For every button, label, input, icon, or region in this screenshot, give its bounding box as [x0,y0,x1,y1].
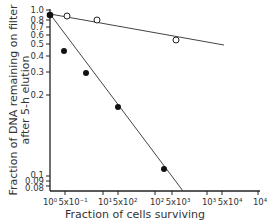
svg-text:5x10⁴: 5x10⁴ [218,197,243,207]
x-axis-title: Fraction of cells surviving [65,208,205,221]
data-point [47,12,54,19]
svg-text:10⁴: 10⁴ [253,197,268,207]
data-point [115,104,121,110]
svg-text:10²: 10² [150,197,164,207]
data-point [173,37,179,43]
svg-text:0.08: 0.08 [25,183,44,193]
svg-text:0.3: 0.3 [30,67,44,77]
svg-text:0.5: 0.5 [30,39,44,49]
open-series-fit-line [50,14,224,45]
chart: 1.0 0.8 0.7 0.6 0.5 0.4 0.3 0.2 0.1 0.09… [0,0,274,221]
filled-circle-series [47,12,167,172]
svg-text:10⁰: 10⁰ [43,197,58,207]
svg-text:5x10²: 5x10² [113,197,138,207]
filled-series-fit-line [50,14,183,191]
data-point [94,17,100,23]
data-point [83,70,89,76]
y-axis-title-line2: after 5-h elution [19,56,32,145]
svg-text:0.2: 0.2 [30,90,44,100]
svg-text:5x10³: 5x10³ [166,197,191,207]
data-point [161,166,167,172]
svg-text:10³: 10³ [202,197,216,207]
svg-text:0.4: 0.4 [30,51,44,61]
svg-text:5x10⁻¹: 5x10⁻¹ [58,197,87,207]
open-circle-series [64,13,179,43]
x-tick-labels: 10⁰ 5x10⁻¹ 10¹ 5x10² 10² 5x10³ 10³ 5x10⁴… [43,197,268,207]
svg-text:10¹: 10¹ [98,197,112,207]
data-point [61,48,67,54]
svg-text:1.0: 1.0 [30,5,44,15]
data-point [64,13,70,19]
